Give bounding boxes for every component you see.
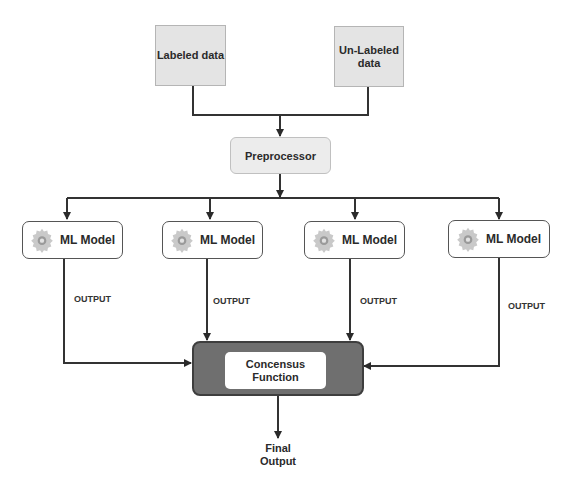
- output-label-3: OUTPUT: [360, 296, 397, 306]
- ml-model-node-3: ML Model: [304, 221, 405, 259]
- ml-model-label: ML Model: [60, 233, 115, 247]
- output-label-2: OUTPUT: [213, 296, 250, 306]
- ml-model-label: ML Model: [200, 233, 255, 247]
- ml-model-node-1: ML Model: [22, 221, 123, 259]
- inputs-merge-line: [193, 86, 368, 115]
- unlabeled-data-label-line1: Un-Labeled: [339, 44, 399, 57]
- output-label-4: OUTPUT: [508, 301, 545, 311]
- gear-icon: [169, 227, 195, 253]
- gear-icon: [311, 227, 337, 253]
- consensus-function-box: Concensus Function: [225, 352, 326, 389]
- labeled-data-node: Labeled data: [155, 25, 226, 86]
- final-output-label: Final Output: [248, 442, 308, 468]
- ml-model-node-2: ML Model: [162, 221, 263, 259]
- final-output-line1: Final: [248, 442, 308, 455]
- output-label-1: OUTPUT: [74, 294, 111, 304]
- ml-model-node-4: ML Model: [448, 220, 550, 258]
- gear-icon: [29, 227, 55, 253]
- consensus-label-line2: Function: [252, 371, 298, 384]
- unlabeled-data-label-line2: data: [358, 57, 381, 70]
- model-4-output-line: [364, 258, 499, 366]
- labeled-data-label: Labeled data: [157, 49, 224, 62]
- ensemble-diagram: Labeled data Un-Labeled data Preprocesso…: [0, 0, 571, 486]
- ml-model-label: ML Model: [342, 233, 397, 247]
- unlabeled-data-node: Un-Labeled data: [334, 26, 404, 87]
- ml-model-label: ML Model: [486, 232, 541, 246]
- model-1-output-line: [64, 258, 191, 363]
- preprocessor-node: Preprocessor: [230, 137, 331, 174]
- consensus-label-line1: Concensus: [246, 358, 305, 371]
- final-output-line2: Output: [248, 455, 308, 468]
- gear-icon: [455, 226, 481, 252]
- preprocessor-label: Preprocessor: [245, 150, 316, 162]
